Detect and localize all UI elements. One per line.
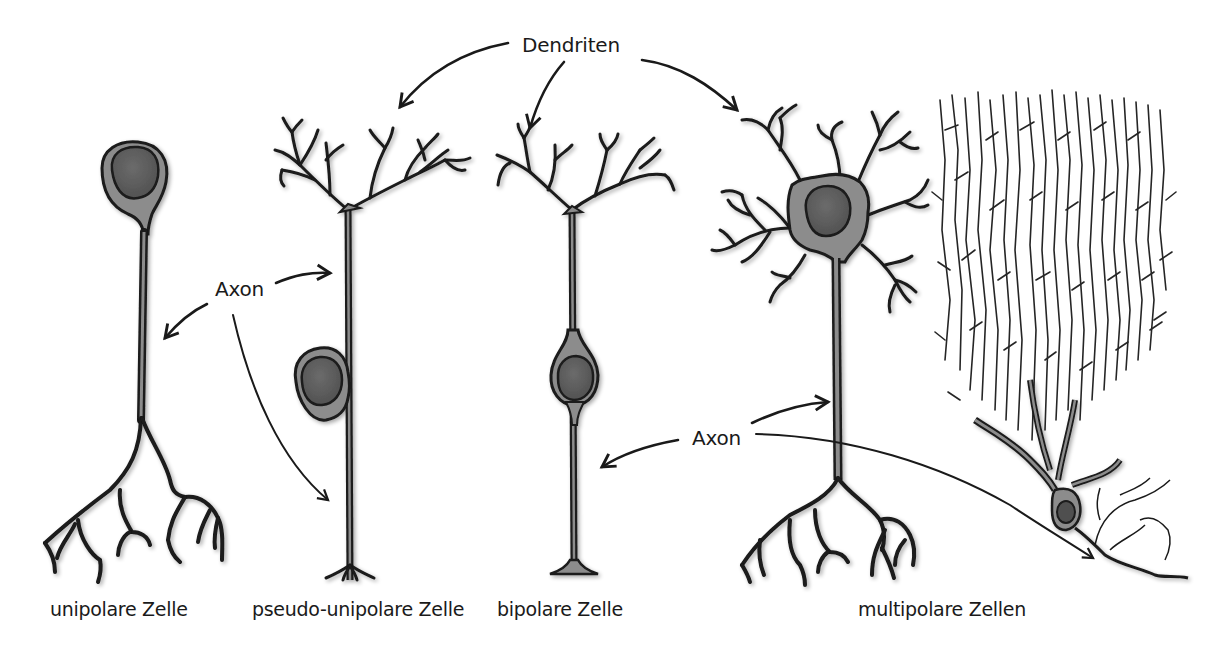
- bipolar-cell: [497, 124, 674, 574]
- arrow-axon-to-multipolar: [752, 402, 828, 423]
- arrow-axon-to-unipolar: [165, 304, 207, 338]
- arrow-dendrites-to-bipolar: [530, 62, 564, 128]
- axon-callout-left: Axon: [215, 277, 264, 301]
- label-bipolar-cell: bipolare Zelle: [497, 598, 623, 620]
- arrow-dendrites-to-pseudo: [400, 43, 508, 107]
- purkinje-cell: [932, 90, 1188, 578]
- pseudo-unipolar-cell: [275, 118, 470, 580]
- label-unipolar-cell: unipolare Zelle: [50, 598, 188, 620]
- neuron-types-diagram: [0, 0, 1227, 665]
- arrow-axon-to-pseudo: [276, 273, 330, 283]
- axon-callout-right: Axon: [692, 426, 741, 450]
- unipolar-cell: [45, 142, 222, 582]
- arrow-axon-to-bipolar: [602, 440, 678, 467]
- dendrites-callout: Dendriten: [522, 33, 620, 57]
- multipolar-cell: [712, 105, 928, 585]
- label-multipolar-cells: multipolare Zellen: [858, 598, 1026, 620]
- callout-arrows: [165, 43, 1093, 558]
- label-pseudo-unipolar-cell: pseudo-unipolare Zelle: [252, 598, 464, 620]
- arrow-dendrites-to-multipolar: [642, 60, 737, 110]
